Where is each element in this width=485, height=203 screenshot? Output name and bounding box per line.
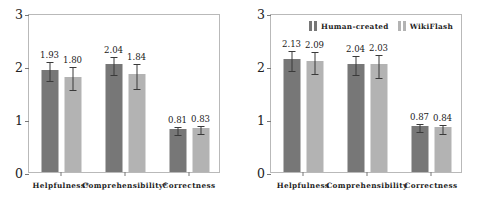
legend-swatch-bar: [314, 21, 317, 31]
y-axis-tick: [267, 68, 271, 69]
error-bar-cap: [439, 125, 446, 126]
error-bar-cap: [197, 126, 204, 127]
error-bar: [378, 55, 379, 78]
y-axis-tick: [25, 174, 29, 175]
error-bar-cap: [174, 127, 181, 128]
error-bar-cap: [352, 75, 359, 76]
y-axis-tick-label: 1: [257, 115, 265, 128]
legend-swatch-bar: [398, 21, 401, 31]
error-bar: [72, 67, 73, 90]
bar-value-label: 2.13: [282, 40, 301, 49]
bar-value-label: 0.81: [168, 116, 187, 125]
error-bar-cap: [311, 74, 318, 75]
bar-value-label: 2.09: [305, 41, 324, 50]
legend-swatch-icon: [398, 21, 406, 31]
error-bar: [177, 127, 178, 134]
error-bar: [291, 51, 292, 71]
error-bar-cap: [375, 78, 382, 79]
bar-value-label: 0.84: [433, 114, 452, 123]
error-bar: [314, 52, 315, 74]
legend-label: Human-created: [321, 22, 389, 31]
x-axis-tick: [125, 172, 126, 176]
x-axis-tick: [189, 172, 190, 176]
bar-value-label: 1.80: [63, 56, 82, 65]
error-bar: [136, 64, 137, 88]
error-bar-cap: [133, 89, 140, 90]
error-bar: [113, 57, 114, 75]
y-axis-tick: [267, 174, 271, 175]
x-axis-category-label: Correctness: [163, 181, 216, 190]
y-axis-tick-label: 0: [257, 168, 265, 181]
error-bar-cap: [46, 62, 53, 63]
bar: [41, 70, 58, 172]
error-bar-cap: [288, 51, 295, 52]
bar: [306, 61, 323, 172]
error-bar-cap: [416, 124, 423, 125]
y-axis-tick-label: 3: [257, 9, 265, 22]
x-axis-category-label: Comprehensibility: [326, 181, 407, 190]
y-axis-tick-label: 2: [257, 62, 265, 75]
error-bar-cap: [69, 90, 76, 91]
error-bar-cap: [133, 64, 140, 65]
legend-item: Human-created: [309, 21, 389, 31]
legend-swatch-bar: [403, 21, 406, 31]
y-axis-tick-label: 0: [15, 168, 23, 181]
bar: [370, 64, 387, 172]
legend-label: WikiFlash: [410, 22, 453, 31]
x-axis-category-label: Correctness: [405, 181, 458, 190]
error-bar: [442, 125, 443, 133]
bar: [411, 126, 428, 172]
y-axis-tick: [267, 15, 271, 16]
y-axis-tick: [25, 68, 29, 69]
y-axis-tick-label: 2: [15, 62, 23, 75]
error-bar-cap: [174, 135, 181, 136]
error-bar-cap: [288, 71, 295, 72]
bar-value-label: 1.84: [127, 53, 146, 62]
x-axis-tick: [367, 172, 368, 176]
bar: [283, 59, 300, 172]
bar-value-label: 0.87: [410, 113, 429, 122]
error-bar-cap: [311, 52, 318, 53]
chart-panel-left: 0123Helpfulness*1.931.80Comprehensibilit…: [0, 0, 242, 203]
bar-value-label: 2.03: [369, 44, 388, 53]
bar: [347, 64, 364, 172]
error-bar: [200, 126, 201, 133]
error-bar-cap: [197, 134, 204, 135]
legend-swatch-icon: [309, 21, 317, 31]
error-bar-cap: [375, 55, 382, 56]
error-bar-cap: [110, 57, 117, 58]
error-bar-cap: [352, 56, 359, 57]
bar-value-label: 2.04: [104, 46, 123, 55]
y-axis-tick: [25, 15, 29, 16]
x-axis-category-label: Helpfulness*: [33, 181, 90, 190]
legend-item: WikiFlash: [398, 21, 453, 31]
error-bar-cap: [439, 134, 446, 135]
bar-value-label: 2.04: [346, 45, 365, 54]
error-bar: [49, 62, 50, 81]
bar: [105, 64, 122, 172]
x-axis-category-label: Comprehensibility*: [82, 181, 167, 190]
x-axis-tick: [431, 172, 432, 176]
chart-panel-right: Human-createdWikiFlash 0123Helpfulness2.…: [242, 0, 484, 203]
y-axis-tick: [267, 121, 271, 122]
error-bar-cap: [110, 75, 117, 76]
x-axis-category-label: Helpfulness: [277, 181, 330, 190]
y-axis-tick-label: 3: [15, 9, 23, 22]
y-axis-tick: [25, 121, 29, 122]
error-bar-cap: [69, 67, 76, 68]
legend: Human-createdWikiFlash: [309, 21, 453, 31]
legend-swatch-bar: [309, 21, 312, 31]
bar-value-label: 1.93: [40, 51, 59, 60]
error-bar: [355, 56, 356, 75]
x-axis-tick: [61, 172, 62, 176]
error-bar-cap: [46, 81, 53, 82]
y-axis-tick-label: 1: [15, 115, 23, 128]
plot-area-left: 0123Helpfulness*1.931.80Comprehensibilit…: [28, 14, 220, 173]
x-axis-tick: [303, 172, 304, 176]
plot-area-right: Human-createdWikiFlash 0123Helpfulness2.…: [270, 14, 462, 173]
figure-two-bar-panels: 0123Helpfulness*1.931.80Comprehensibilit…: [0, 0, 485, 203]
error-bar: [419, 124, 420, 131]
bar-value-label: 0.83: [191, 115, 210, 124]
error-bar-cap: [416, 132, 423, 133]
